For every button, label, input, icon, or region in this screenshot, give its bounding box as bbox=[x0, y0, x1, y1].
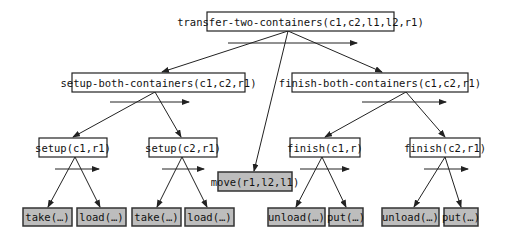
node-label: take(…) bbox=[25, 211, 69, 223]
node-label: setup(c1,r1) bbox=[35, 142, 111, 154]
edge-setup2-load2 bbox=[182, 157, 207, 207]
edge-finish2-put2 bbox=[445, 157, 461, 207]
node-load-1: load(…) bbox=[77, 208, 126, 226]
node-label: setup-both-containers(c1,c2,r1) bbox=[61, 77, 257, 89]
edge-setup1-take1 bbox=[48, 157, 75, 207]
node-label: finish(c2,r1) bbox=[404, 142, 486, 154]
node-root: transfer-two-containers(c1,c2,l1,l2,r1) bbox=[177, 12, 424, 31]
node-label: load(…) bbox=[187, 211, 231, 223]
edge-finish2-unload2 bbox=[414, 157, 445, 207]
edge-finish1-unload1 bbox=[296, 157, 322, 207]
edge-root-setup-both bbox=[162, 31, 288, 72]
htn-decomposition-diagram: transfer-two-containers(c1,c2,l1,l2,r1) … bbox=[0, 0, 508, 240]
node-label: move(r1,l2,l1) bbox=[211, 176, 300, 188]
node-label: put(…) bbox=[327, 211, 365, 223]
edge-finish-both-finish2 bbox=[406, 92, 445, 137]
node-move: move(r1,l2,l1) bbox=[211, 172, 300, 191]
edge-setup1-load1 bbox=[75, 157, 100, 207]
node-setup-c1: setup(c1,r1) bbox=[35, 138, 111, 157]
node-label: load(…) bbox=[79, 211, 123, 223]
edge-root-move bbox=[254, 31, 288, 171]
node-label: unload(…) bbox=[382, 211, 439, 223]
node-setup-c2: setup(c2,r1) bbox=[145, 138, 221, 157]
node-finish-c1: finish(c1,r) bbox=[287, 138, 363, 157]
edge-setup2-take2 bbox=[157, 157, 182, 207]
edge-setup-both-setup1 bbox=[73, 92, 155, 137]
node-label: put(…) bbox=[442, 211, 480, 223]
edge-finish-both-finish1 bbox=[325, 92, 406, 137]
node-put-1: put(…) bbox=[327, 208, 365, 226]
edge-setup-both-setup2 bbox=[155, 92, 181, 137]
node-take-1: take(…) bbox=[23, 208, 72, 226]
node-label: take(…) bbox=[134, 211, 178, 223]
node-take-2: take(…) bbox=[132, 208, 181, 226]
node-label: finish-both-containers(c1,c2,r1) bbox=[279, 77, 481, 89]
node-put-2: put(…) bbox=[442, 208, 480, 226]
node-label: setup(c2,r1) bbox=[145, 142, 221, 154]
node-unload-1: unload(…) bbox=[268, 208, 325, 226]
node-label: unload(…) bbox=[268, 211, 325, 223]
edge-finish1-put1 bbox=[322, 157, 346, 207]
node-setup-both-containers: setup-both-containers(c1,c2,r1) bbox=[61, 73, 257, 92]
edge-root-finish-both bbox=[288, 31, 382, 72]
node-finish-c2: finish(c2,r1) bbox=[404, 138, 486, 157]
node-load-2: load(…) bbox=[185, 208, 234, 226]
node-label: finish(c1,r) bbox=[287, 142, 363, 154]
node-label: transfer-two-containers(c1,c2,l1,l2,r1) bbox=[177, 16, 424, 28]
node-finish-both-containers: finish-both-containers(c1,c2,r1) bbox=[279, 73, 481, 92]
node-unload-2: unload(…) bbox=[382, 208, 439, 226]
